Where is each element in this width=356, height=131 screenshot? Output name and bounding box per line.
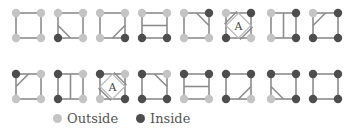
- case-cell: [54, 9, 87, 42]
- inside-vertex-icon: [292, 34, 300, 42]
- inside-vertex-icon: [163, 95, 171, 103]
- legend-outside: Outside: [53, 111, 118, 126]
- case-cell: [12, 70, 45, 103]
- cell-edge: [226, 74, 251, 99]
- legend-outside-label: Outside: [67, 111, 118, 126]
- inside-vertex-icon: [292, 70, 300, 78]
- case-cell: A: [96, 70, 129, 103]
- inside-vertex-icon: [334, 95, 342, 103]
- inside-vertex-icon: [12, 70, 20, 78]
- inside-vertex-icon: [309, 34, 317, 42]
- inside-vertex-icon: [309, 70, 317, 78]
- outside-vertex-icon: [267, 95, 275, 103]
- outside-vertex-icon: [205, 34, 213, 42]
- inside-vertex-icon: [96, 70, 104, 78]
- outside-vertex-icon: [121, 70, 129, 78]
- inside-vertex-icon: [138, 34, 146, 42]
- inside-vertex-icon: [205, 9, 213, 17]
- outside-vertex-icon: [79, 34, 87, 42]
- inside-dot-icon: [136, 114, 145, 123]
- outside-vertex-icon: [79, 9, 87, 17]
- inside-vertex-icon: [121, 34, 129, 42]
- cell-edge: [100, 13, 125, 38]
- outside-vertex-icon: [79, 95, 87, 103]
- outside-vertex-icon: [12, 34, 20, 42]
- inside-vertex-icon: [138, 70, 146, 78]
- ambiguous-label: A: [108, 81, 118, 94]
- cell-edge: [313, 74, 338, 99]
- outside-vertex-icon: [37, 34, 45, 42]
- outside-vertex-icon: [96, 9, 104, 17]
- case-cell: [180, 70, 213, 103]
- inside-vertex-icon: [54, 34, 62, 42]
- inside-vertex-icon: [54, 95, 62, 103]
- cell-edge: [271, 74, 296, 99]
- outside-vertex-icon: [180, 95, 188, 103]
- outside-vertex-icon: [54, 9, 62, 17]
- inside-vertex-icon: [222, 95, 230, 103]
- outside-vertex-icon: [96, 95, 104, 103]
- case-cell: [54, 70, 87, 103]
- inside-vertex-icon: [163, 34, 171, 42]
- outside-vertex-icon: [309, 9, 317, 17]
- cell-edge: [16, 74, 41, 99]
- outside-vertex-icon: [163, 9, 171, 17]
- inside-vertex-icon: [292, 95, 300, 103]
- inside-vertex-icon: [180, 70, 188, 78]
- outside-vertex-icon: [180, 34, 188, 42]
- inside-vertex-icon: [334, 9, 342, 17]
- case-cell: [309, 9, 342, 42]
- outside-vertex-icon: [121, 9, 129, 17]
- ambiguous-label: A: [234, 20, 244, 33]
- outside-vertex-icon: [222, 9, 230, 17]
- outside-vertex-icon: [267, 9, 275, 17]
- case-cell: [180, 9, 213, 42]
- inside-vertex-icon: [222, 70, 230, 78]
- inside-vertex-icon: [334, 70, 342, 78]
- legend-inside-label: Inside: [150, 111, 190, 126]
- outside-vertex-icon: [180, 9, 188, 17]
- outside-vertex-icon: [96, 34, 104, 42]
- case-cell: [309, 70, 342, 103]
- cell-edge: [313, 13, 338, 38]
- cell-edge: [184, 13, 209, 38]
- case-cell: [267, 70, 300, 103]
- cell-edge: [16, 13, 41, 38]
- outside-vertex-icon: [37, 9, 45, 17]
- outside-vertex-icon: [37, 70, 45, 78]
- outside-vertex-icon: [79, 70, 87, 78]
- case-cell: A: [222, 9, 255, 42]
- inside-vertex-icon: [309, 95, 317, 103]
- outside-vertex-icon: [247, 95, 255, 103]
- inside-vertex-icon: [222, 34, 230, 42]
- outside-vertex-icon: [247, 34, 255, 42]
- case-cell: [267, 9, 300, 42]
- outside-vertex-icon: [205, 95, 213, 103]
- outside-dot-icon: [53, 114, 62, 123]
- inside-vertex-icon: [247, 70, 255, 78]
- cell-edge: [142, 74, 167, 99]
- inside-vertex-icon: [54, 70, 62, 78]
- inside-vertex-icon: [138, 95, 146, 103]
- outside-vertex-icon: [12, 9, 20, 17]
- outside-vertex-icon: [12, 95, 20, 103]
- outside-vertex-icon: [138, 9, 146, 17]
- cell-edge: [58, 13, 83, 38]
- case-cell: [96, 9, 129, 42]
- outside-vertex-icon: [267, 34, 275, 42]
- inside-vertex-icon: [205, 70, 213, 78]
- inside-vertex-icon: [334, 34, 342, 42]
- case-cell: [12, 9, 45, 42]
- inside-vertex-icon: [292, 9, 300, 17]
- legend-inside: Inside: [136, 111, 190, 126]
- outside-vertex-icon: [37, 95, 45, 103]
- case-cell: [138, 70, 171, 103]
- outside-vertex-icon: [163, 70, 171, 78]
- case-cell: [222, 70, 255, 103]
- inside-vertex-icon: [121, 95, 129, 103]
- inside-vertex-icon: [247, 9, 255, 17]
- case-cell: [138, 9, 171, 42]
- inside-vertex-icon: [267, 70, 275, 78]
